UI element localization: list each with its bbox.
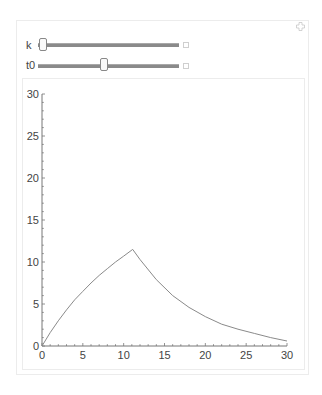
series-line: [42, 249, 287, 346]
line-chart: 051015202530051015202530: [0, 0, 322, 395]
x-tick-label: 25: [240, 349, 252, 361]
x-tick-label: 20: [199, 349, 211, 361]
y-tick-label: 10: [27, 256, 39, 268]
x-tick-label: 30: [281, 349, 293, 361]
x-tick-label: 0: [39, 349, 45, 361]
x-tick-label: 5: [80, 349, 86, 361]
y-tick-label: 30: [27, 88, 39, 100]
x-tick-label: 10: [118, 349, 130, 361]
x-tick-label: 15: [158, 349, 170, 361]
y-tick-label: 20: [27, 172, 39, 184]
y-tick-label: 25: [27, 130, 39, 142]
y-tick-label: 5: [33, 298, 39, 310]
y-tick-label: 0: [33, 340, 39, 352]
y-tick-label: 15: [27, 214, 39, 226]
